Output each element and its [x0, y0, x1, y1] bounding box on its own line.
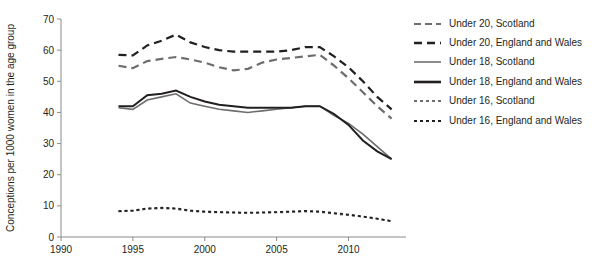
svg-text:1995: 1995 [122, 244, 145, 255]
legend-label: Under 20, Scotland [449, 19, 535, 29]
svg-text:2000: 2000 [194, 244, 217, 255]
series-line [119, 208, 392, 221]
series-line [119, 55, 392, 119]
legend-item-under18-england-wales: Under 18, England and Wales [414, 72, 604, 91]
svg-text:Conceptions per 1000 women in: Conceptions per 1000 women in the age gr… [5, 24, 16, 232]
legend-swatch-under18-england-wales [414, 77, 441, 87]
svg-text:2005: 2005 [266, 244, 289, 255]
legend-label: Under 16, Scotland [449, 96, 535, 106]
y-axis-title: Conceptions per 1000 women in the age gr… [5, 24, 16, 232]
chart-legend: Under 20, Scotland Under 20, England and… [414, 14, 604, 130]
svg-text:40: 40 [43, 107, 55, 118]
legend-swatch-under16-scotland [414, 96, 441, 106]
svg-text:0: 0 [48, 232, 54, 243]
legend-label: Under 18, Scotland [449, 57, 535, 67]
svg-text:10: 10 [43, 200, 55, 211]
svg-text:2010: 2010 [337, 244, 360, 255]
legend-swatch-under18-scotland [414, 57, 441, 67]
legend-item-under16-scotland: Under 16, Scotland [414, 92, 604, 111]
svg-text:1990: 1990 [50, 244, 73, 255]
conceptions-line-chart: 01020304050607019901995200020052010 Conc… [0, 0, 605, 266]
legend-item-under20-scotland: Under 20, Scotland [414, 14, 604, 33]
svg-text:70: 70 [43, 14, 55, 25]
legend-swatch-under16-england-wales [414, 116, 441, 126]
svg-text:50: 50 [43, 76, 55, 87]
legend-swatch-under20-scotland [414, 19, 441, 29]
legend-item-under18-scotland: Under 18, Scotland [414, 53, 604, 72]
svg-text:30: 30 [43, 138, 55, 149]
legend-label: Under 18, England and Wales [449, 77, 582, 87]
chart-series [119, 35, 392, 222]
legend-label: Under 20, England and Wales [449, 38, 582, 48]
chart-axes: 01020304050607019901995200020052010 [43, 14, 406, 256]
legend-swatch-under20-england-wales [414, 38, 441, 48]
legend-label: Under 16, England and Wales [449, 116, 582, 126]
svg-text:60: 60 [43, 45, 55, 56]
svg-text:20: 20 [43, 169, 55, 180]
legend-item-under16-england-wales: Under 16, England and Wales [414, 111, 604, 130]
legend-item-under20-england-wales: Under 20, England and Wales [414, 33, 604, 52]
series-line [119, 208, 392, 221]
